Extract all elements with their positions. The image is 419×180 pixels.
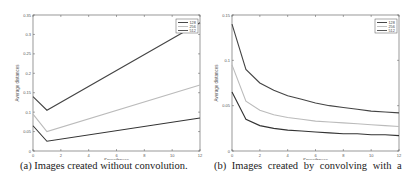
y-tick-label: 0.15 bbox=[23, 90, 32, 95]
y-tick-label: 0.1 bbox=[25, 110, 31, 115]
x-tick-label: 0 bbox=[32, 153, 35, 158]
line-chart-b: 02468101200.050.10.15SmoothnessAverage d… bbox=[210, 0, 419, 160]
legend-label: 512 bbox=[190, 29, 196, 33]
x-tick-label: 12 bbox=[198, 153, 203, 158]
legend-label: 512 bbox=[389, 29, 395, 33]
series-line-512 bbox=[33, 23, 200, 110]
x-tick-label: 2 bbox=[60, 153, 63, 158]
y-tick-label: 0.15 bbox=[222, 13, 231, 18]
x-tick-label: 4 bbox=[88, 153, 91, 158]
y-axis-label: Average distances bbox=[214, 64, 219, 102]
series-line-128 bbox=[33, 118, 200, 141]
x-tick-label: 8 bbox=[143, 153, 146, 158]
plot-area bbox=[232, 15, 399, 151]
y-tick-label: 0.05 bbox=[222, 103, 231, 108]
caption-b: (b) Images created by convolving with a bbox=[214, 160, 402, 171]
series-line-128 bbox=[232, 92, 399, 136]
x-tick-label: 8 bbox=[342, 153, 345, 158]
x-tick-label: 2 bbox=[259, 153, 262, 158]
y-tick-label: 0.35 bbox=[23, 13, 32, 18]
y-tick-label: 0.3 bbox=[25, 32, 31, 37]
x-tick-label: 0 bbox=[231, 153, 234, 158]
caption-a: (a) Images created without convolution. bbox=[20, 160, 188, 171]
y-axis-label: Average distances bbox=[15, 64, 20, 102]
series-line-256 bbox=[232, 65, 399, 127]
line-chart-a: 02468101200.050.10.150.20.250.30.35Smoot… bbox=[0, 0, 210, 160]
y-tick-label: 0.1 bbox=[224, 58, 230, 63]
y-tick-label: 0.05 bbox=[23, 129, 32, 134]
x-tick-label: 4 bbox=[287, 153, 290, 158]
y-tick-label: 0.2 bbox=[25, 71, 31, 76]
series-line-256 bbox=[33, 85, 200, 132]
x-tick-label: 10 bbox=[170, 153, 175, 158]
x-tick-label: 12 bbox=[397, 153, 402, 158]
chart-panel-b: 02468101200.050.10.15SmoothnessAverage d… bbox=[210, 0, 419, 180]
chart-panel-a: 02468101200.050.10.150.20.250.30.35Smoot… bbox=[0, 0, 210, 180]
x-tick-label: 10 bbox=[369, 153, 374, 158]
y-tick-label: 0.25 bbox=[23, 51, 32, 56]
series-line-512 bbox=[232, 24, 399, 113]
